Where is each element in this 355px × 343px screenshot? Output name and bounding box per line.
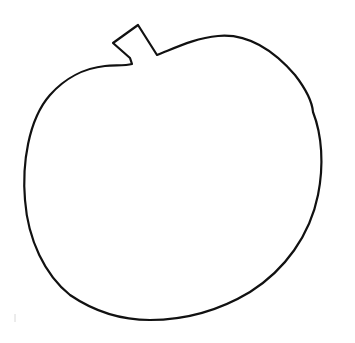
apple-drawing <box>0 0 355 343</box>
apple-outline <box>24 25 321 320</box>
